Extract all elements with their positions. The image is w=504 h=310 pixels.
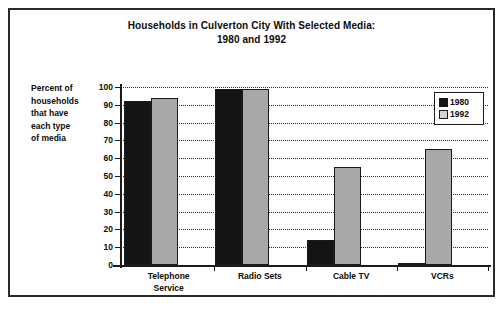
bar-telephone-service-1980: [124, 101, 151, 265]
bar-vcrs-1980: [398, 263, 425, 265]
legend-item-1980: 1980: [439, 96, 479, 108]
bar-cable-tv-1980: [307, 240, 334, 265]
y-tick-mark: [115, 176, 121, 177]
chart-title: Households in Culverton City With Select…: [10, 19, 493, 47]
y-tick-mark: [115, 158, 121, 159]
y-tick-label: 60: [89, 154, 113, 162]
y-tick-label: 70: [89, 136, 113, 144]
chart-legend: 1980 1992: [434, 92, 484, 125]
y-tick-mark: [115, 123, 121, 124]
y-tick-mark: [115, 247, 121, 248]
category-label-line: VCRs: [389, 271, 496, 283]
category-label-vcrs: VCRs: [389, 271, 496, 283]
bar-vcrs-1992: [425, 149, 452, 265]
y-tick-label: 100: [89, 83, 113, 91]
legend-label-1980: 1980: [450, 98, 469, 107]
y-tick-label: 80: [89, 119, 113, 127]
gridline: [123, 87, 488, 88]
legend-item-1992: 1992: [439, 108, 479, 120]
bar-telephone-service-1992: [151, 98, 178, 265]
chart-screenshot: Households in Culverton City With Select…: [0, 0, 504, 310]
chart-title-line-1: Households in Culverton City With Select…: [10, 19, 493, 33]
y-tick-label: 0: [89, 261, 113, 269]
legend-label-1992: 1992: [450, 110, 469, 119]
x-axis-line: [113, 265, 491, 267]
y-tick-mark: [115, 265, 121, 266]
y-tick-mark: [115, 229, 121, 230]
bar-radio-sets-1992: [242, 89, 269, 265]
legend-swatch-1980-icon: [439, 98, 448, 107]
y-tick-label: 30: [89, 208, 113, 216]
chart-frame: Households in Culverton City With Select…: [8, 8, 495, 297]
legend-swatch-1992-icon: [439, 110, 448, 119]
y-tick-mark: [115, 194, 121, 195]
y-tick-label: 20: [89, 225, 113, 233]
category-label-line: Service: [115, 283, 222, 295]
y-tick-mark: [115, 87, 121, 88]
y-tick-label: 10: [89, 243, 113, 251]
y-tick-mark: [115, 140, 121, 141]
chart-title-line-2: 1980 and 1992: [10, 33, 493, 47]
bar-radio-sets-1980: [215, 89, 242, 265]
y-tick-label: 90: [89, 101, 113, 109]
bar-cable-tv-1992: [334, 167, 361, 265]
y-tick-label: 40: [89, 190, 113, 198]
y-tick-mark: [115, 212, 121, 213]
y-tick-label: 50: [89, 172, 113, 180]
y-tick-mark: [115, 105, 121, 106]
